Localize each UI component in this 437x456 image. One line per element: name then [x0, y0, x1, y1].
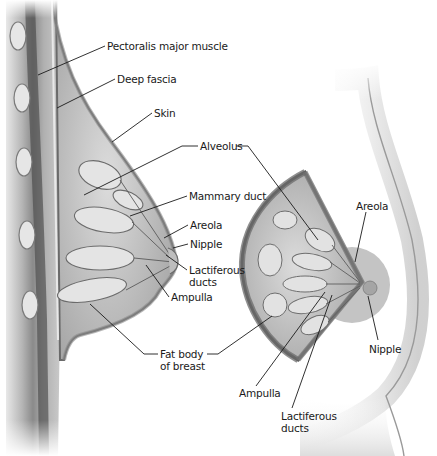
label-fat-body-line2: of breast	[160, 360, 205, 372]
label-nipple: Nipple	[190, 238, 222, 250]
label-pectoralis-major-muscle: Pectoralis major muscle	[107, 40, 228, 52]
nipple-disc	[363, 281, 377, 295]
label-lactiferous-ducts-line2: ducts	[189, 276, 217, 288]
label-lactiferous-right-line2: ducts	[281, 422, 309, 434]
label-ampulla: Ampulla	[171, 291, 213, 303]
label-deep-fascia: Deep fascia	[117, 73, 177, 85]
label-lactiferous-ducts-line1: Lactiferous	[189, 264, 245, 276]
label-nipple-right: Nipple	[369, 343, 401, 355]
label-areola: Areola	[190, 219, 222, 231]
label-fat-body-line1: Fat body	[160, 348, 203, 360]
label-ampulla-right: Ampulla	[239, 387, 281, 399]
label-alveolus: Alveolus	[200, 140, 243, 152]
label-lactiferous-right-line1: Lactiferous	[281, 410, 337, 422]
label-skin: Skin	[154, 107, 176, 119]
left-sagittal-section	[0, 0, 178, 456]
breast-anatomy-diagram: Pectoralis major muscle Deep fascia Skin…	[0, 0, 437, 456]
label-mammary-duct: Mammary duct	[189, 190, 266, 202]
label-areola-right: Areola	[356, 200, 388, 212]
